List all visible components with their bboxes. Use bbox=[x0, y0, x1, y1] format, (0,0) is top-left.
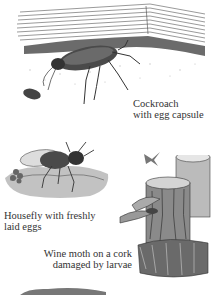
caption-line: laid eggs bbox=[4, 221, 96, 232]
caption-line: Housefly with freshly bbox=[4, 210, 96, 221]
cockroach-illustration bbox=[0, 0, 212, 110]
caption-line: with egg capsule bbox=[133, 109, 204, 120]
caption-wine-moth: Wine moth on a cork damaged by larvae bbox=[42, 248, 132, 270]
caption-cockroach: Cockroach with egg capsule bbox=[133, 98, 204, 120]
housefly-illustration bbox=[0, 128, 115, 208]
cork-moth-illustration bbox=[118, 155, 212, 285]
partial-illustration-bottom bbox=[18, 286, 108, 295]
caption-line: Wine moth on a cork bbox=[42, 248, 132, 259]
caption-line: Cockroach bbox=[133, 98, 204, 109]
caption-housefly: Housefly with freshly laid eggs bbox=[4, 210, 96, 232]
caption-line: damaged by larvae bbox=[42, 259, 132, 270]
